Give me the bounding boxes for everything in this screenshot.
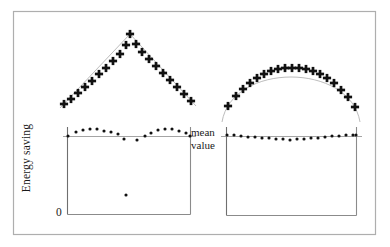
data-point xyxy=(337,134,340,137)
data-point xyxy=(81,128,84,131)
data-point xyxy=(122,137,125,140)
data-point xyxy=(225,133,228,136)
plus-marker xyxy=(309,67,317,75)
figure-canvas: Energy saving 0 mean value xyxy=(0,0,390,247)
data-point xyxy=(274,137,277,140)
data-point xyxy=(143,134,146,137)
plus-marker xyxy=(253,74,261,82)
data-point xyxy=(135,138,138,141)
data-point xyxy=(109,130,112,133)
data-point xyxy=(267,136,270,139)
plus-marker xyxy=(74,89,82,97)
bottom-left-panel-axes xyxy=(63,127,196,215)
data-point xyxy=(66,134,69,137)
data-point xyxy=(232,133,235,136)
data-point xyxy=(288,138,291,141)
data-point xyxy=(302,137,305,140)
bottom-right-markers xyxy=(225,133,357,141)
y-axis-label: Energy saving xyxy=(20,110,32,206)
data-point xyxy=(354,133,357,136)
data-point xyxy=(351,133,354,136)
plus-marker xyxy=(267,67,275,75)
data-point xyxy=(149,131,152,134)
data-point xyxy=(309,136,312,139)
plus-marker xyxy=(239,85,247,93)
plus-marker xyxy=(323,74,331,82)
data-point xyxy=(344,133,347,136)
data-point xyxy=(177,129,180,132)
data-point xyxy=(95,127,98,130)
mean-line-label-bottom: value xyxy=(191,139,215,151)
plus-marker xyxy=(246,79,254,87)
data-point xyxy=(253,135,256,138)
data-point xyxy=(184,131,187,134)
top-right-guide-curve xyxy=(222,77,360,122)
data-point xyxy=(316,136,319,139)
data-point xyxy=(74,130,77,133)
plus-marker xyxy=(224,102,232,110)
plus-marker xyxy=(316,70,324,78)
data-point xyxy=(239,134,242,137)
plus-marker xyxy=(159,69,167,77)
y-axis-zero-tick-label: 0 xyxy=(56,206,62,218)
top-right-markers xyxy=(224,64,359,111)
plus-marker xyxy=(152,62,160,70)
plus-marker xyxy=(109,57,117,65)
data-point xyxy=(323,135,326,138)
data-point xyxy=(124,193,127,196)
plus-marker xyxy=(138,48,146,56)
plus-marker xyxy=(95,70,103,78)
plus-marker xyxy=(180,90,188,98)
plus-marker xyxy=(281,64,289,72)
plus-marker xyxy=(344,93,352,101)
plus-marker xyxy=(116,50,124,58)
data-point xyxy=(88,127,91,130)
plus-marker xyxy=(88,77,96,85)
data-point xyxy=(246,135,249,138)
data-point xyxy=(170,127,173,130)
plus-marker xyxy=(67,95,75,103)
plus-marker xyxy=(288,64,296,72)
plus-marker xyxy=(302,65,310,73)
data-point xyxy=(102,129,105,132)
plus-marker xyxy=(102,64,110,72)
data-point xyxy=(330,134,333,137)
data-point xyxy=(163,127,166,130)
data-point xyxy=(156,128,159,131)
mean-line-label-top: mean xyxy=(191,126,215,138)
plus-marker xyxy=(295,64,303,72)
bottom-left-markers xyxy=(66,127,191,196)
plus-marker xyxy=(260,70,268,78)
data-point xyxy=(116,132,119,135)
plus-marker xyxy=(145,55,153,63)
plus-marker xyxy=(173,83,181,91)
plus-marker xyxy=(122,41,130,49)
data-point xyxy=(260,136,263,139)
data-point xyxy=(281,137,284,140)
plus-marker xyxy=(274,65,282,73)
plus-marker xyxy=(132,40,140,48)
data-point xyxy=(295,137,298,140)
plus-marker xyxy=(166,76,174,84)
plus-marker xyxy=(337,86,345,94)
top-left-markers xyxy=(60,30,195,108)
plus-marker xyxy=(351,103,359,111)
